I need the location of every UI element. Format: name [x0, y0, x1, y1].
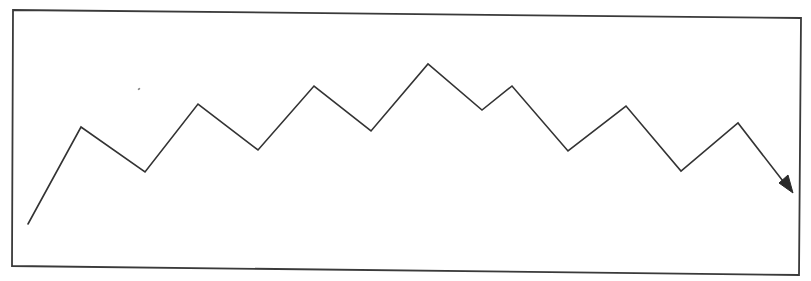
- background: [0, 0, 811, 281]
- diagram-canvas: [0, 0, 811, 281]
